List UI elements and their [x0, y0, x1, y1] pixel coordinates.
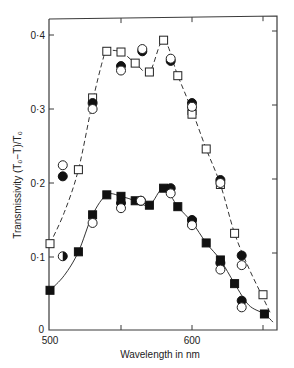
- open-square-marker: [259, 291, 267, 299]
- y-tick-label: 0·1: [31, 252, 46, 263]
- transmissivity-chart: 50060000·10·20·30·4 Wavelength in nm Tra…: [0, 0, 294, 368]
- open-circle-marker: [216, 179, 225, 188]
- open-square-marker: [145, 68, 153, 76]
- filled-circle-marker: [237, 251, 246, 260]
- axis-frame: [49, 16, 277, 330]
- filled-square-marker: [145, 201, 153, 209]
- open-circle-marker: [216, 265, 225, 274]
- open-circle-marker: [188, 221, 197, 230]
- filled-square-marker: [46, 286, 54, 294]
- filled-square-marker: [260, 310, 268, 318]
- filled-square-marker: [103, 191, 111, 199]
- open-circle-marker: [88, 105, 97, 114]
- open-circle-marker: [166, 189, 175, 198]
- open-circle-marker: [138, 45, 147, 54]
- filled-square-marker: [202, 239, 210, 247]
- open-circle-marker: [117, 204, 126, 213]
- upper-dashed-curve: [50, 40, 270, 312]
- open-circle-marker: [237, 303, 246, 312]
- open-circle-marker: [188, 102, 197, 111]
- fitted-curves: [50, 40, 273, 322]
- half-filled-circle-marker: [58, 252, 67, 261]
- open-circle-marker: [237, 261, 246, 270]
- open-circle-marker: [166, 54, 175, 63]
- data-markers: [46, 36, 268, 318]
- open-circle-marker: [136, 196, 145, 205]
- open-square-marker: [74, 166, 82, 174]
- open-square-marker: [46, 240, 54, 248]
- filled-square-marker: [74, 248, 82, 256]
- open-square-marker: [131, 59, 139, 67]
- y-axis-title: Transmissivity (T₀−T)/T₀: [12, 131, 23, 239]
- open-circle-marker: [58, 161, 67, 170]
- y-tick-label: 0·3: [31, 104, 46, 115]
- filled-square-marker: [89, 211, 97, 219]
- filled-square-marker: [174, 203, 182, 211]
- plot-frame: [49, 16, 277, 330]
- x-tick-label: 500: [42, 335, 59, 346]
- filled-square-marker: [231, 280, 239, 288]
- open-square-marker: [117, 48, 125, 56]
- open-square-marker: [231, 229, 239, 237]
- axis-ticks: [49, 16, 277, 330]
- x-axis-title: Wavelength in nm: [120, 349, 200, 360]
- open-square-marker: [160, 36, 168, 44]
- open-square-marker: [202, 145, 210, 153]
- y-tick-label: 0·2: [31, 178, 46, 189]
- y-tick-label: 0·4: [31, 30, 46, 41]
- open-square-marker: [174, 72, 182, 80]
- x-tick-label: 600: [184, 335, 201, 346]
- open-circle-marker: [117, 66, 126, 75]
- open-circle-marker: [88, 218, 97, 227]
- filled-circle-marker: [58, 172, 67, 181]
- open-square-marker: [103, 47, 111, 55]
- y-tick-label: 0: [38, 324, 44, 335]
